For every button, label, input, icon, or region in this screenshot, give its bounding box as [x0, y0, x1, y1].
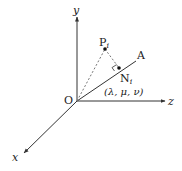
point-n [117, 66, 121, 70]
right-angle-marker [112, 65, 117, 71]
point-n-letter: N [120, 72, 130, 85]
x-axis-label: x [12, 151, 19, 164]
point-n-coords: (λ, μ, ν) [104, 86, 144, 97]
dashed-line-o-p [77, 49, 105, 101]
line-a-label: A [136, 49, 146, 62]
point-n-label: Ni [120, 72, 133, 86]
dashed-line-p-n [105, 49, 119, 68]
y-axis-label: y [72, 4, 80, 17]
x-axis [24, 101, 77, 153]
coordinate-diagram: y z x O A Pi Ni (λ, μ, ν) [0, 0, 182, 171]
z-axis-label: z [167, 95, 174, 108]
origin-label: O [64, 94, 73, 107]
point-p-subscript: i [106, 41, 109, 50]
point-n-subscript: i [130, 77, 133, 86]
point-p-label: Pi [99, 36, 109, 50]
